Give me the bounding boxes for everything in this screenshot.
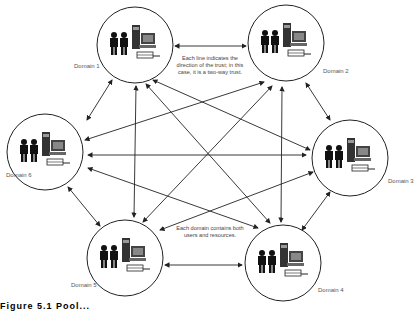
domain-3 — [312, 120, 388, 196]
domain-4 — [245, 225, 321, 301]
domain-4-label: Domain 4 — [318, 287, 344, 293]
domain-5-label: Domain 5 — [71, 282, 97, 288]
figure-caption: Figure 5.1 Pool... — [0, 301, 90, 311]
domain-2 — [248, 5, 324, 81]
domain-6 — [7, 114, 83, 190]
domain-5 — [87, 220, 163, 296]
trust-direction-note: Each line indicates the direction of the… — [174, 55, 246, 76]
domain-1-label: Domain 1 — [74, 63, 100, 69]
domain-3-label: Domain 3 — [388, 178, 414, 184]
domain-2-label: Domain 2 — [323, 68, 349, 74]
domain-6-label: Domain 6 — [6, 172, 32, 178]
domain-contents-note: Each domain contains both users and reso… — [170, 225, 250, 239]
domain-1 — [97, 7, 173, 83]
